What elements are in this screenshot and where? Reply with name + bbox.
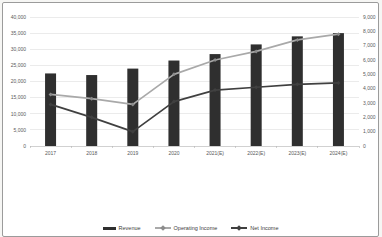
bar-revenue [127,69,138,146]
y-right-tick-label: 4,000 [363,85,376,91]
y-left-tick-label: 25,000 [11,62,27,68]
y-left-tick-label: 10,000 [11,111,27,117]
y-left-tick-label: 30,000 [11,46,27,52]
y-right-tick-label: 5,000 [363,71,376,77]
chart-card: 05,00010,00015,00020,00025,00030,00035,0… [2,2,379,176]
y-right-tick-label: 0 [363,143,366,149]
bar-revenue [251,44,262,146]
y-left-tick-label: 5,000 [13,127,26,133]
x-tick-label: 2023(E) [288,150,306,156]
y-right-tick-label: 8,000 [363,28,376,34]
y-right-tick-label: 2,000 [363,114,376,120]
x-tick-label: 2018 [86,150,97,156]
y-right-tick-label: 3,000 [363,100,376,106]
x-tick-label: 2022(E) [247,150,265,156]
y-left-tick-label: 40,000 [11,14,27,20]
bar-revenue [210,54,221,146]
y-left-tick-label: 35,000 [11,30,27,36]
x-tick-label: 2024(E) [330,150,348,156]
y-right-tick-label: 6,000 [363,57,376,63]
bar-revenue [45,73,56,146]
x-tick-label: 2017 [45,150,56,156]
x-tick-label: 2020 [168,150,179,156]
bar-revenue [333,33,344,146]
x-tick-label: 2019 [127,150,138,156]
bar-revenue [292,36,303,146]
x-tick-label: 2021(E) [206,150,224,156]
y-right-tick-label: 7,000 [363,42,376,48]
y-left-tick-label: 20,000 [11,78,27,84]
y-left-tick-label: 0 [23,143,26,149]
combo-chart: 05,00010,00015,00020,00025,00030,00035,0… [3,3,382,176]
y-right-tick-label: 1,000 [363,128,376,134]
bar-revenue [86,75,97,146]
y-left-tick-label: 15,000 [11,94,27,100]
y-right-tick-label: 9,000 [363,14,376,20]
